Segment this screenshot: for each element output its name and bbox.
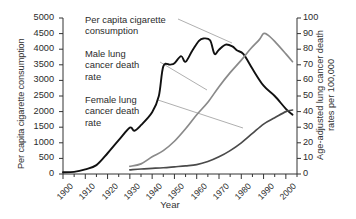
left-tick-label: 4000	[20, 43, 54, 53]
annotation-male-rate: Male lung cancer death rate	[85, 48, 139, 82]
leader-line	[158, 100, 243, 128]
left-tick-label: 1500	[20, 121, 54, 131]
right-tick-label: 0	[303, 168, 331, 178]
right-tick-label: 70	[303, 59, 331, 69]
right-tick-label: 80	[303, 43, 331, 53]
left-tick-label: 2500	[20, 90, 54, 100]
right-tick-label: 20	[303, 137, 331, 147]
series-line-female-lung-cancer-death-rate	[130, 110, 293, 170]
annotation-female-rate: Female lung cancer death rate	[85, 94, 139, 128]
left-tick-label: 2000	[20, 106, 54, 116]
annotation-cigarette-consumption: Per capita cigarette consumption	[85, 14, 166, 37]
left-tick-label: 3500	[20, 59, 54, 69]
leader-line	[160, 62, 207, 90]
right-tick-label: 60	[303, 74, 331, 84]
right-tick-label: 90	[303, 28, 331, 38]
left-tick-label: 4500	[20, 28, 54, 38]
leader-line	[178, 19, 232, 43]
right-tick-label: 30	[303, 121, 331, 131]
left-tick-label: 0	[20, 168, 54, 178]
right-tick-label: 50	[303, 90, 331, 100]
series-line-male-lung-cancer-death-rate	[130, 33, 293, 166]
right-tick-label: 10	[303, 152, 331, 162]
right-tick-label: 100	[303, 12, 331, 22]
left-tick-label: 500	[20, 152, 54, 162]
right-tick-label: 40	[303, 106, 331, 116]
lung-cancer-cigarette-chart: Per capita cigarette consumption Age-adj…	[0, 0, 356, 219]
left-tick-label: 5000	[20, 12, 54, 22]
left-tick-label: 1000	[20, 137, 54, 147]
left-tick-label: 3000	[20, 74, 54, 84]
